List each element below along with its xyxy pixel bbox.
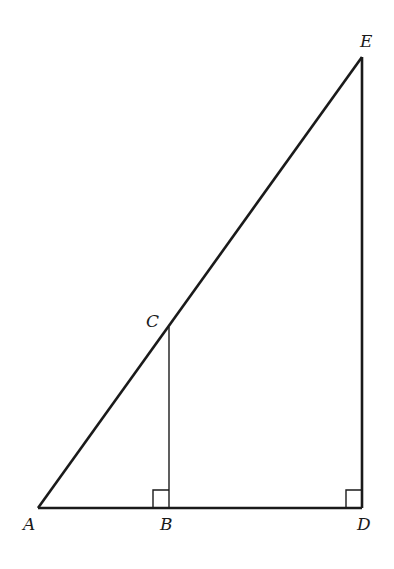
triangle-diagram: A B D C E — [0, 0, 394, 569]
right-angle-marker-b — [153, 490, 169, 508]
point-label-e: E — [359, 31, 373, 51]
point-label-c: C — [146, 311, 159, 331]
segment-ae — [38, 57, 362, 508]
right-angle-marker-d — [346, 490, 362, 508]
point-label-b: B — [159, 514, 173, 534]
point-label-a: A — [21, 514, 35, 534]
point-label-d: D — [356, 514, 371, 534]
